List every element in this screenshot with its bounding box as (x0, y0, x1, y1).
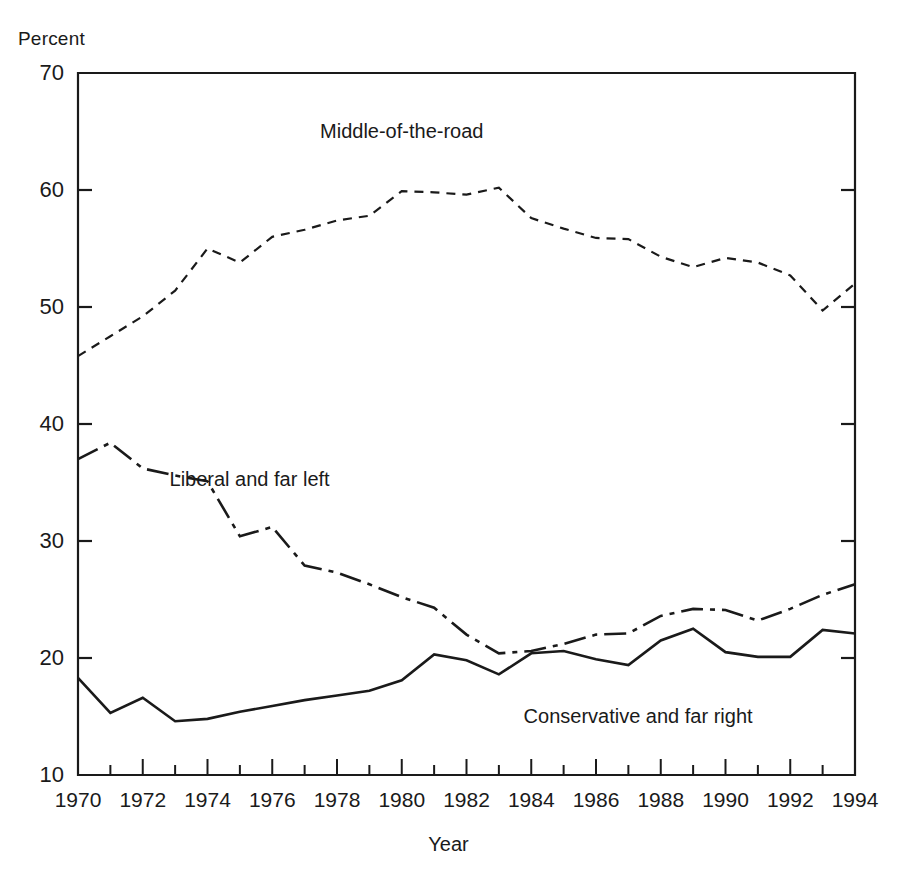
y-tick-label-20: 20 (6, 647, 64, 669)
y-tick-label-60: 60 (6, 179, 64, 201)
series-label-0: Middle-of-the-road (320, 120, 483, 143)
x-tick-label-1994: 1994 (815, 789, 895, 810)
y-axis-title: Percent (18, 28, 85, 50)
y-tick-label-40: 40 (6, 413, 64, 435)
plot-frame (78, 73, 855, 775)
y-tick-label-70: 70 (6, 62, 64, 84)
x-axis-title: Year (0, 833, 897, 856)
chart-figure: Percent 10203040506070 19701972197419761… (0, 0, 897, 881)
data-series (78, 188, 855, 722)
y-tick-label-30: 30 (6, 530, 64, 552)
y-tick-label-50: 50 (6, 296, 64, 318)
series-label-1: Liberal and far left (170, 468, 330, 491)
axes-lines (78, 73, 855, 775)
series-line-0 (78, 188, 855, 356)
y-tick-label-10: 10 (6, 764, 64, 786)
series-label-2: Conservative and far right (524, 705, 753, 728)
